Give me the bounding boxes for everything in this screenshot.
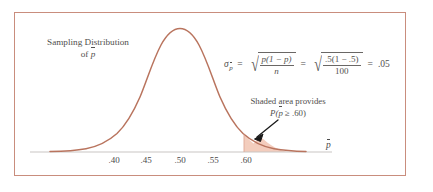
axis-p-bar-symbol: p	[326, 140, 331, 150]
radicand-numeric: .5(1 − .5) 100	[321, 52, 363, 76]
x-tick-label-3: .55	[207, 155, 218, 165]
sampling-distribution-caption: Sampling Distribution of p	[32, 36, 144, 60]
formula-result-value: .05	[378, 59, 390, 69]
equals-sign-3: =	[367, 59, 374, 69]
x-axis-variable-label: p	[326, 140, 331, 150]
annotation-line-1: Shaded area provides	[250, 96, 325, 106]
shaded-area-annotation: Shaded area provides P(p ≥ .60)	[232, 96, 344, 119]
sigma-subscript-p-bar: p	[229, 64, 233, 72]
fraction-denominator-numeric: 100	[323, 65, 361, 77]
standard-error-formula: σp = √ p(1 − p) n = √ .5(1 − .5) 100 = .…	[224, 52, 390, 76]
radical-sign-icon: √	[251, 54, 259, 74]
radical-term-numeric: √ .5(1 − .5) 100	[311, 52, 363, 76]
radical-sign-icon-2: √	[314, 54, 322, 74]
x-tick-label-2: .50	[174, 155, 185, 165]
sigma-p-bar-symbol: σp	[224, 59, 232, 69]
x-tick-label-4: .60	[240, 155, 251, 165]
fraction-numerator-symbolic: p(1 − p)	[260, 54, 294, 65]
x-tick-label-0: .40	[108, 155, 119, 165]
equals-sign-1: =	[236, 59, 243, 69]
caption-p-bar-symbol: p	[91, 48, 96, 60]
annotation-p-bar-symbol: p	[278, 108, 282, 120]
sigma-glyph: σ	[224, 59, 229, 69]
fraction-numerator-numeric: .5(1 − .5)	[323, 54, 361, 65]
annotation-line-2-suffix: ≥ .60)	[283, 108, 306, 118]
radical-term-symbolic: √ p(1 − p) n	[248, 52, 296, 76]
radicand-symbolic: p(1 − p) n	[258, 52, 296, 76]
x-tick-label-1: .45	[140, 155, 151, 165]
equals-sign-2: =	[300, 59, 307, 69]
fraction-denominator-symbolic: n	[260, 65, 294, 77]
figure-container: Sampling Distribution of p σp = √ p(1 − …	[0, 0, 433, 192]
annotation-arrow	[255, 120, 279, 142]
caption-line-2-prefix: of	[81, 49, 91, 59]
caption-line-1: Sampling Distribution	[47, 37, 129, 47]
